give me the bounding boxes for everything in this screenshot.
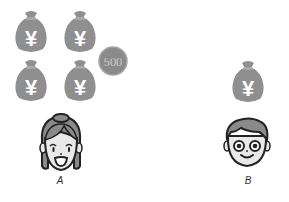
money-bag-icon: ¥ (13, 58, 49, 102)
svg-text:¥: ¥ (242, 76, 255, 101)
svg-text:¥: ¥ (25, 26, 38, 51)
svg-text:500: 500 (104, 56, 122, 68)
money-bag-icon: ¥ (62, 9, 98, 53)
girl-face-avatar (34, 112, 88, 174)
label-b: B (238, 175, 258, 186)
svg-text:¥: ¥ (74, 26, 87, 51)
money-bag-icon: ¥ (230, 59, 266, 103)
svg-text:¥: ¥ (74, 75, 87, 100)
label-a: A (50, 175, 70, 186)
money-bag-icon: ¥ (62, 58, 98, 102)
boy-face-avatar (221, 116, 273, 168)
money-bag-icon: ¥ (13, 9, 49, 53)
svg-text:¥: ¥ (25, 75, 38, 100)
coin-500-icon: 500 (98, 46, 128, 76)
